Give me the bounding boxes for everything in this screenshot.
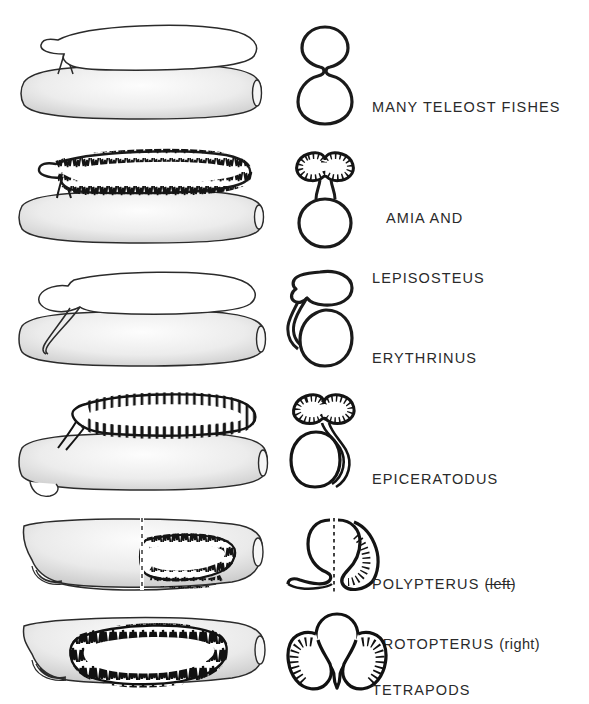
lateral-view-polypterus-protopterus — [18, 512, 280, 622]
cross-section-teleosts — [286, 18, 364, 130]
row-label-teleosts: MANY TELEOST FISHES — [372, 57, 561, 157]
gut-tube — [19, 191, 263, 243]
figure-row-teleosts: MANY TELEOST FISHES — [0, 18, 589, 130]
gut-tube — [21, 65, 261, 119]
label-line: TETRAPODS — [372, 680, 471, 700]
lateral-view-teleosts — [18, 18, 280, 130]
gut-section — [299, 199, 351, 247]
cross-section-amia-lepisosteus — [286, 144, 364, 254]
septal-lining-ventral — [92, 426, 234, 431]
gut-cut-end — [253, 538, 263, 566]
swim-bladder — [41, 25, 257, 70]
figure-row-tetrapods: TETRAPODS — [0, 608, 589, 704]
gut-section — [291, 432, 340, 487]
swim-bladder — [39, 272, 255, 314]
row-label-tetrapods: TETRAPODS — [372, 640, 471, 704]
gut-tube — [19, 311, 265, 366]
lateral-view-tetrapods — [18, 608, 280, 704]
figure-row-polypterus-protopterus: POLYPTERUS (left) PROTOPTERUS (right) — [0, 512, 589, 622]
gut-cut-end — [259, 450, 268, 476]
gut-cut-end — [253, 80, 262, 106]
lateral-view-amia-lepisosteus — [18, 144, 280, 254]
gut-cut-end — [255, 636, 265, 664]
ventral-pouch — [30, 482, 58, 496]
gut-tube — [19, 433, 267, 490]
gut-section — [300, 310, 352, 366]
pneumatic-duct — [316, 180, 335, 199]
lateral-view-erythrinus — [18, 266, 280, 378]
alveolar-lining-ventral — [74, 184, 230, 189]
polypterus-lung-outline — [288, 520, 331, 584]
label-line: EPICERATODUS — [372, 469, 498, 489]
label-line: MANY TELEOST FISHES — [372, 97, 561, 117]
label-line-polypterus: POLYPTERUS (left) — [372, 574, 540, 594]
label-line: ERYTHRINUS — [372, 348, 477, 368]
bladder-gut-section-outline — [298, 27, 352, 124]
alveolar-lining-dorsal — [150, 579, 222, 584]
genus-name: POLYPTERUS — [372, 576, 479, 592]
figure-row-erythrinus: ERYTHRINUS — [0, 266, 589, 378]
cross-section-erythrinus — [286, 266, 364, 378]
comparative-anatomy-figure: MANY TELEOST FISHES — [0, 0, 589, 704]
figure-row-epiceratodus: EPICERATODUS — [0, 388, 589, 508]
gut-cut-end — [255, 205, 264, 229]
lateral-view-epiceratodus — [18, 388, 280, 508]
cross-section-polypterus-protopterus — [286, 512, 382, 620]
figure-row-amia-lepisosteus: AMIA AND LEPISOSTEUS — [0, 144, 589, 254]
swim-bladder-section — [292, 271, 352, 305]
label-line: AMIA AND — [372, 208, 485, 228]
side-note-left: (left) — [485, 576, 516, 592]
gut-cut-end — [257, 326, 266, 352]
cross-section-epiceratodus — [286, 388, 364, 506]
